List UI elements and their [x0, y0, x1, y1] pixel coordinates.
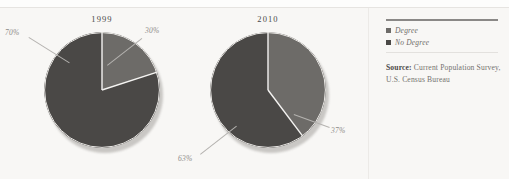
- pie-charts-area: 1999 70%: [0, 8, 368, 179]
- chart-title-1999: 1999: [10, 14, 194, 24]
- pct-label-degree-2010: 37%: [331, 126, 346, 135]
- pct-label-no-degree-1999: 70%: [5, 28, 20, 37]
- legend-panel: Degree No Degree Source: Current Populat…: [368, 8, 509, 179]
- pie-slices-2010: [210, 32, 326, 148]
- pie-slices-1999: [44, 32, 160, 148]
- pie-chart-2010: 2010 37% 6: [176, 8, 360, 179]
- pie-graphic-2010: [210, 32, 326, 148]
- legend-item-degree[interactable]: Degree: [386, 25, 504, 36]
- source-label: Source:: [386, 63, 412, 72]
- chart-page: 1999 70%: [0, 0, 509, 179]
- legend-label-no-degree: No Degree: [395, 37, 429, 48]
- legend-bottom-rule: [386, 52, 498, 53]
- pie-chart-1999: 1999 70%: [10, 8, 194, 179]
- pct-label-no-degree-2010: 63%: [178, 154, 193, 163]
- panel-divider: [368, 8, 369, 179]
- source-note: Source: Current Population Survey, U.S. …: [386, 62, 504, 85]
- legend: Degree No Degree: [386, 25, 504, 49]
- cropped-headline-strip: [0, 0, 509, 7]
- pie-graphic-1999: [44, 32, 160, 148]
- legend-item-no-degree[interactable]: No Degree: [386, 37, 504, 48]
- legend-swatch-icon-no-degree: [386, 40, 391, 45]
- legend-label-degree: Degree: [395, 25, 418, 36]
- chart-title-2010: 2010: [176, 14, 360, 24]
- pie-svg-2010: [210, 32, 326, 148]
- legend-top-rule: [386, 19, 498, 21]
- legend-swatch-icon-degree: [386, 28, 391, 33]
- pct-label-degree-1999: 30%: [145, 26, 160, 35]
- pie-svg-1999: [44, 32, 160, 148]
